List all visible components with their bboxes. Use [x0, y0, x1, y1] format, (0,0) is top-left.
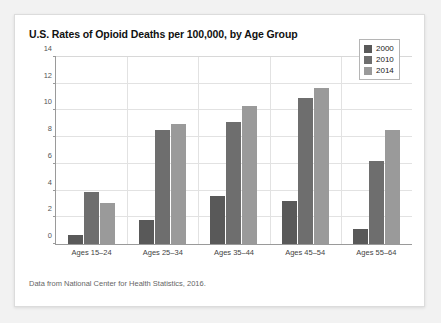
chart-card: U.S. Rates of Opioid Deaths per 100,000,…: [14, 14, 425, 307]
legend-item-label: 2010: [376, 54, 394, 65]
bar-group: [270, 57, 341, 244]
bar: [385, 130, 400, 244]
y-axis-tick-label: 0: [48, 231, 52, 240]
bar: [68, 235, 83, 244]
bar-group: [198, 57, 269, 244]
bar-group: [56, 57, 127, 244]
bar: [353, 229, 368, 244]
plot-area: 02468101214Ages 15–24Ages 25–34Ages 35–4…: [55, 57, 412, 245]
page-title: U.S. Rates of Opioid Deaths per 100,000,…: [29, 28, 298, 40]
chart-plot-wrapper: 02468101214Ages 15–24Ages 25–34Ages 35–4…: [29, 51, 412, 263]
bar: [226, 122, 241, 244]
x-axis-tick-label: Ages 45–54: [285, 248, 325, 257]
legend-swatch-icon: [364, 45, 372, 53]
x-axis-tick-label: Ages 35–44: [214, 248, 254, 257]
bar: [242, 106, 257, 244]
legend-item-label: 2000: [376, 43, 394, 54]
legend-item: 2000: [364, 43, 394, 54]
bar: [210, 196, 225, 244]
x-axis-tick-label: Ages 55–64: [356, 248, 396, 257]
bar: [369, 161, 384, 244]
y-axis-tick-label: 2: [48, 204, 52, 213]
y-axis-tick-label: 14: [44, 44, 52, 53]
bar: [282, 201, 297, 244]
chart-legend: 200020102014: [359, 39, 400, 80]
bar-group: [127, 57, 198, 244]
bar-group: [341, 57, 412, 244]
y-axis-tick-label: 12: [44, 70, 52, 79]
y-axis-tick-label: 4: [48, 177, 52, 186]
bar: [155, 130, 170, 244]
legend-swatch-icon: [364, 56, 372, 64]
bar: [171, 124, 186, 244]
legend-item: 2014: [364, 65, 394, 76]
bar: [100, 203, 115, 244]
x-axis-tick-label: Ages 25–34: [143, 248, 183, 257]
chart-source-note: Data from National Center for Health Sta…: [29, 279, 206, 288]
bar: [314, 88, 329, 244]
legend-item-label: 2014: [376, 65, 394, 76]
bar: [139, 220, 154, 244]
legend-swatch-icon: [364, 67, 372, 75]
y-axis-tick-label: 6: [48, 150, 52, 159]
legend-item: 2010: [364, 54, 394, 65]
y-axis-tick-label: 10: [44, 97, 52, 106]
x-axis-tick-label: Ages 15–24: [72, 248, 112, 257]
bar: [298, 98, 313, 244]
y-axis-tick-label: 8: [48, 124, 52, 133]
bar: [84, 192, 99, 244]
